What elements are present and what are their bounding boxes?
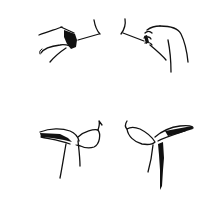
top-left-hand-drawing xyxy=(39,20,100,62)
bottom-left-hand-drawing xyxy=(40,121,102,178)
top-right-hand-drawing xyxy=(121,19,188,72)
bottom-right-hand-drawing xyxy=(126,121,194,190)
illustration xyxy=(0,0,205,223)
